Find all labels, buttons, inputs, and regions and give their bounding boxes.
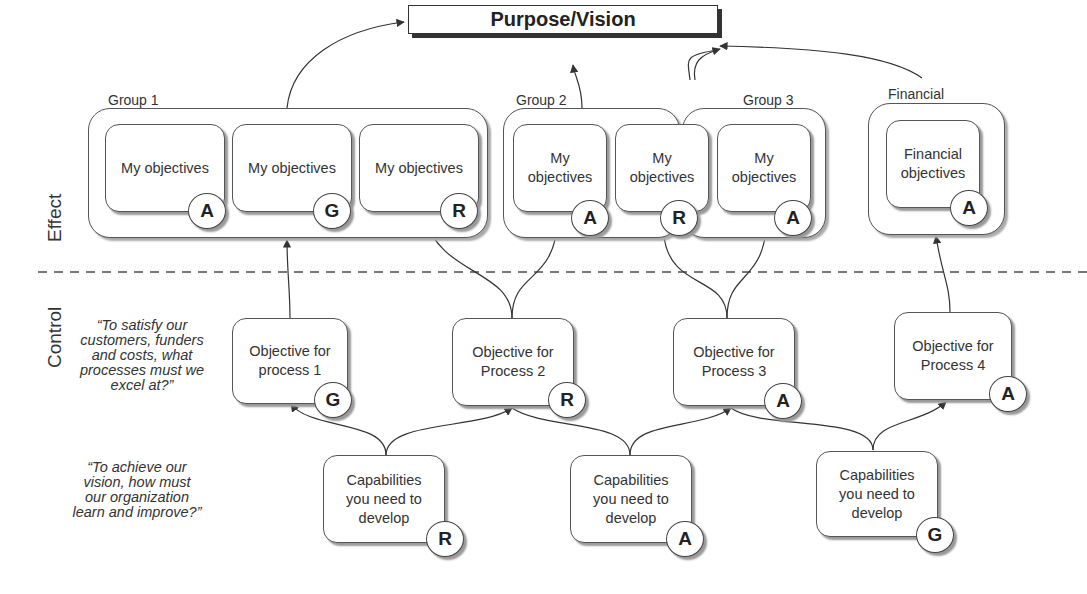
purpose-vision-title: Purpose/Vision (490, 8, 635, 31)
processes-question: “To satisfy our customers, funders and c… (77, 318, 207, 393)
arrow-cap3-to-process4 (873, 402, 946, 450)
objective-text: Objective for Process 4 (903, 337, 1003, 375)
rating-badge: A (666, 521, 704, 557)
arrow-process4-to-financial (936, 236, 950, 312)
objective-text: My objectives (525, 149, 595, 187)
objective-box[interactable]: My objectives (513, 124, 607, 212)
group-2-label: Group 2 (516, 92, 567, 108)
rating-badge: R (660, 200, 698, 236)
effect-section-label: Effect (44, 194, 66, 242)
capability-text: Capabilities you need to develop (581, 471, 681, 528)
arrow-process3-to-obj5 (664, 236, 727, 318)
arrow-group1-to-vision (287, 22, 404, 108)
rating-badge: R (548, 382, 586, 418)
learning-question: “To achieve our vision, how must our org… (72, 460, 202, 520)
purpose-vision-box: Purpose/Vision (408, 5, 718, 34)
objective-text: My objectives (248, 159, 336, 178)
rating-badge: R (426, 521, 464, 557)
rating-badge: A (950, 190, 988, 226)
capability-box[interactable]: Capabilities you need to develop (323, 455, 445, 543)
objective-text: Objective for Process 3 (684, 343, 784, 381)
rating-badge: G (314, 382, 352, 418)
group-3-label: Group 3 (743, 92, 794, 108)
arrow-financial-to-vision (720, 46, 922, 78)
objective-text: My objectives (121, 159, 209, 178)
objective-text: Objective for Process 2 (463, 343, 563, 381)
objective-box[interactable]: My objectives (615, 124, 709, 212)
objective-text: Objective for process 1 (240, 342, 340, 380)
rating-badge: R (440, 193, 478, 229)
rating-badge: A (188, 193, 226, 229)
objective-text: My objectives (729, 149, 799, 187)
arrow-cap1-to-process2 (386, 408, 512, 455)
objective-box[interactable]: My objectives (717, 124, 811, 212)
financial-group-label: Financial (888, 86, 944, 102)
rating-badge: A (571, 200, 609, 236)
control-section-label: Control (44, 307, 66, 368)
rating-badge: A (774, 200, 812, 236)
objective-text: My objectives (627, 149, 697, 187)
rating-badge: A (764, 383, 802, 419)
rating-badge: G (916, 517, 954, 553)
arrow-cap3-to-process3 (731, 408, 873, 450)
arrow-cap2-to-process3 (630, 408, 731, 455)
arrow-process1-to-group1 (287, 240, 290, 318)
rating-badge: G (313, 193, 351, 229)
arrow-group2-to-vision (573, 65, 582, 108)
objective-text: Financial objectives (893, 145, 973, 183)
capability-text: Capabilities you need to develop (334, 471, 434, 528)
arrow-group3-to-vision (688, 50, 718, 80)
capability-text: Capabilities you need to develop (827, 466, 927, 523)
group-1-label: Group 1 (108, 92, 159, 108)
rating-badge: A (989, 376, 1027, 412)
objective-text: My objectives (375, 159, 463, 178)
